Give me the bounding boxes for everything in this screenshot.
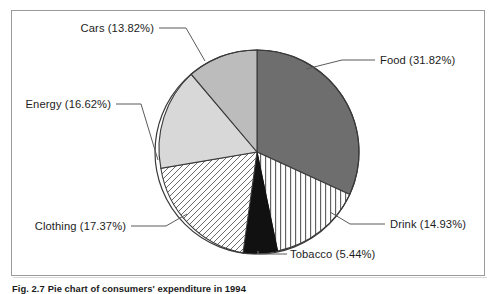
slice-label-clothing: Clothing (17.37%) [35,220,126,232]
leader-line-food [306,60,375,69]
figure-caption-text: Pie chart of consumers' expenditure in 1… [48,283,246,294]
figure-caption-number: Fig. 2.7 [12,283,45,294]
slice-label-tobacco: Tobacco (5.44%) [290,248,376,260]
pie-chart: Food (31.82%) Drink (14.93%) Tobacco (5.… [0,0,500,294]
slice-label-cars: Cars (13.82%) [81,22,155,34]
figure-container: Food (31.82%) Drink (14.93%) Tobacco (5.… [0,0,500,294]
leader-line-cars [159,28,205,61]
slice-label-food: Food (31.82%) [380,54,455,66]
figure-caption: Fig. 2.7Pie chart of consumers' expendit… [12,283,482,294]
leader-line-clothing [131,214,187,226]
pie-slice-clothing [161,152,257,253]
leader-line-energy [116,104,158,160]
slice-label-drink: Drink (14.93%) [390,218,466,230]
slice-label-energy: Energy (16.62%) [26,98,112,110]
